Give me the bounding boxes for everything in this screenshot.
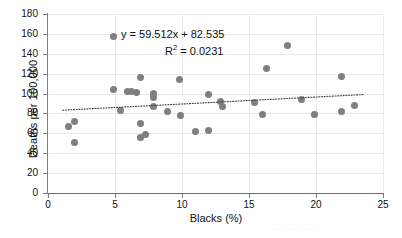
data-point xyxy=(251,99,258,106)
data-point xyxy=(219,103,226,110)
gridline-horizontal xyxy=(48,74,383,75)
y-tick-label: 80 xyxy=(8,108,38,118)
data-point xyxy=(205,91,212,98)
gridline-vertical xyxy=(249,14,250,193)
gridline-horizontal xyxy=(48,14,383,15)
r-squared-number: = 0.0231 xyxy=(177,45,223,57)
trendline-equation-annotation: y = 59.512x + 82.535 R2 = 0.0231 xyxy=(121,27,224,58)
data-point xyxy=(142,131,149,138)
data-point xyxy=(263,65,270,72)
gridline-horizontal xyxy=(48,173,383,174)
gridline-vertical xyxy=(316,14,317,193)
y-tick-label: 40 xyxy=(8,148,38,158)
x-tick-mark xyxy=(115,194,116,198)
r-squared-symbol: R xyxy=(165,45,173,57)
y-axis-line xyxy=(47,13,48,194)
y-tick-mark xyxy=(43,94,48,95)
data-point xyxy=(164,108,171,115)
gridline-horizontal xyxy=(48,133,383,134)
x-tick-mark xyxy=(249,194,250,198)
x-axis-line xyxy=(47,193,384,194)
scatter-chart: Deaths per 100,000 020406080100120140160… xyxy=(0,0,402,238)
data-point xyxy=(351,102,358,109)
data-point xyxy=(311,111,318,118)
y-tick-mark xyxy=(43,113,48,114)
data-point xyxy=(284,42,291,49)
x-axis-title: Blacks (%) xyxy=(48,212,384,224)
data-point xyxy=(338,73,345,80)
data-point xyxy=(298,96,305,103)
x-tick-label: 20 xyxy=(301,200,331,210)
y-tick-label: 60 xyxy=(8,128,38,138)
data-point xyxy=(117,107,124,114)
gridline-horizontal xyxy=(48,113,383,114)
data-point xyxy=(110,86,117,93)
x-tick-label: 0 xyxy=(33,200,63,210)
data-point xyxy=(259,111,266,118)
x-tick-label: 15 xyxy=(234,200,264,210)
data-point xyxy=(150,103,157,110)
data-point xyxy=(177,112,184,119)
y-tick-mark xyxy=(43,173,48,174)
x-tick-mark xyxy=(48,194,49,198)
y-tick-mark xyxy=(43,153,48,154)
y-tick-mark xyxy=(43,14,48,15)
gridline-vertical xyxy=(383,14,384,193)
data-point xyxy=(71,139,78,146)
x-tick-mark xyxy=(316,194,317,198)
y-tick-label: 180 xyxy=(8,9,38,19)
data-point xyxy=(71,118,78,125)
y-tick-label: 120 xyxy=(8,69,38,79)
y-tick-label: 0 xyxy=(8,188,38,198)
y-tick-label: 20 xyxy=(8,168,38,178)
data-point xyxy=(192,128,199,135)
y-tick-mark xyxy=(43,133,48,134)
data-point xyxy=(338,108,345,115)
data-point xyxy=(110,33,117,40)
y-tick-label: 140 xyxy=(8,49,38,59)
data-point xyxy=(133,89,140,96)
x-tick-label: 25 xyxy=(368,200,398,210)
x-tick-label: 10 xyxy=(167,200,197,210)
data-point xyxy=(150,94,157,101)
y-tick-mark xyxy=(43,34,48,35)
scan-bleed-artifact: ·· ·· ···· · ···· ·· xyxy=(272,226,398,233)
y-tick-label: 100 xyxy=(8,89,38,99)
data-point xyxy=(65,123,72,130)
gridline-horizontal xyxy=(48,94,383,95)
data-point xyxy=(137,74,144,81)
gridline-vertical xyxy=(115,14,116,193)
x-tick-label: 5 xyxy=(100,200,130,210)
regression-equation: y = 59.512x + 82.535 xyxy=(121,27,224,41)
gridline-horizontal xyxy=(48,153,383,154)
x-tick-mark xyxy=(383,194,384,198)
y-tick-mark xyxy=(43,54,48,55)
y-tick-mark xyxy=(43,74,48,75)
data-point xyxy=(137,120,144,127)
x-tick-mark xyxy=(182,194,183,198)
r-squared-value: R2 = 0.0231 xyxy=(121,41,224,58)
data-point xyxy=(176,76,183,83)
y-tick-label: 160 xyxy=(8,29,38,39)
